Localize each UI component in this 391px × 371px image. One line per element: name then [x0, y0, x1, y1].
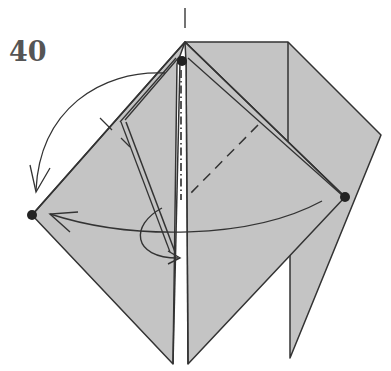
tick-mark-1	[100, 118, 112, 130]
origami-diagram	[0, 0, 391, 371]
left-point-dot	[27, 210, 37, 220]
top-point-dot	[177, 56, 187, 66]
arrowhead-top-left	[30, 165, 50, 192]
right-point-dot	[340, 192, 350, 202]
left-front-flap	[32, 42, 185, 364]
